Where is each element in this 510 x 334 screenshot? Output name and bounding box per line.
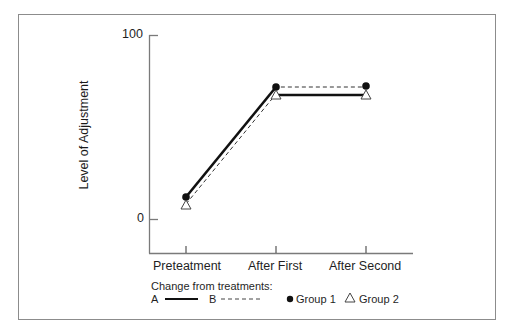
y-tick-label-100: 100 [122,27,143,41]
group1-marker-after-second [362,82,370,90]
legend-b-label: B [209,293,216,305]
series-a-line [186,87,276,197]
legend-group1-dot-icon [287,296,293,302]
legend-group2-triangle-icon [345,293,355,302]
legend-a-label: A [151,293,158,305]
group2-marker-pretreatment [181,200,191,209]
legend-heading: Change from treatments: [151,280,273,292]
y-axis-label: Level of Adjustment [77,65,91,205]
series-b-line [186,87,366,204]
x-tick-label-after-first: After First [248,259,302,273]
x-tick-label-pretreatment: Preteatment [153,259,221,273]
x-tick-label-after-second: After Second [329,259,401,273]
legend-group2-label: Group 2 [359,293,399,305]
y-tick-label-0: 0 [137,211,144,225]
legend-group1-label: Group 1 [296,293,336,305]
